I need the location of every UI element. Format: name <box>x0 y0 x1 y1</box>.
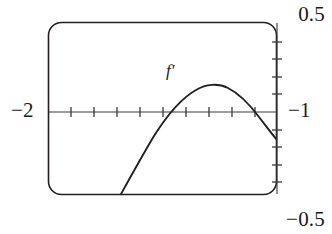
figure-container: 0.5 −0.5 −2 −1 f′ <box>0 0 332 234</box>
x-min-label: −2 <box>11 100 34 121</box>
y-max-label: 0.5 <box>298 4 325 25</box>
y-min-label: −0.5 <box>286 209 325 230</box>
curve-f-prime <box>121 85 278 195</box>
x-max-label: −1 <box>288 100 311 121</box>
curve-label-f-prime: f′ <box>166 62 174 79</box>
plot-svg <box>0 0 332 234</box>
